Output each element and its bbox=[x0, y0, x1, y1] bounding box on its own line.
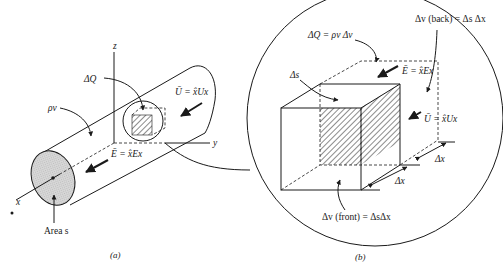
delta-q-label: ΔQ bbox=[83, 74, 97, 84]
u-field-label: Ū = x̂Ux bbox=[175, 86, 209, 97]
delta-s-label: Δs bbox=[289, 70, 300, 80]
u-field-b-label: Ū = x̂Ux bbox=[424, 113, 458, 124]
e-field-b-label: Ē = x̂Ex bbox=[401, 65, 434, 76]
y-axis-label: y bbox=[212, 138, 218, 148]
magnified-region-circle bbox=[123, 101, 250, 170]
origin-dot bbox=[11, 212, 14, 215]
e-field-arrow bbox=[86, 160, 108, 172]
delta-q-b-label: ΔQ = ρv Δv bbox=[307, 30, 353, 40]
x-axis-label: x bbox=[15, 197, 21, 207]
volume-element-cube bbox=[281, 61, 455, 190]
diagram-canvas: z y x ΔQ ρv Ū = x̂Ux Ē = x̂Ex Area s (a) bbox=[0, 0, 503, 270]
panel-b: ΔQ = ρv Δv Δv (back) = Δs Δx Δs Ē = x̂Ex… bbox=[247, 0, 503, 262]
e-field-arrow-b bbox=[378, 66, 398, 77]
e-field-label: Ē = x̂Ex bbox=[110, 148, 143, 159]
area-label: Area s bbox=[44, 226, 69, 236]
caption-a: (a) bbox=[110, 250, 121, 260]
caption-b: (b) bbox=[355, 252, 366, 262]
panel-a: z y x ΔQ ρv Ū = x̂Ux Ē = x̂Ex Area s (a) bbox=[11, 41, 251, 260]
u-field-arrow bbox=[181, 103, 202, 116]
delta-v-front-label: Δv (front) = ΔsΔx bbox=[322, 212, 391, 223]
delta-x-back-label: Δx bbox=[434, 154, 446, 164]
delta-v-back-label: Δv (back) = Δs Δx bbox=[415, 14, 486, 25]
rho-label: ρv bbox=[47, 103, 58, 113]
delta-x-front-label: Δx bbox=[394, 176, 406, 186]
u-field-arrow-b bbox=[409, 112, 421, 119]
z-axis-label: z bbox=[112, 41, 117, 51]
